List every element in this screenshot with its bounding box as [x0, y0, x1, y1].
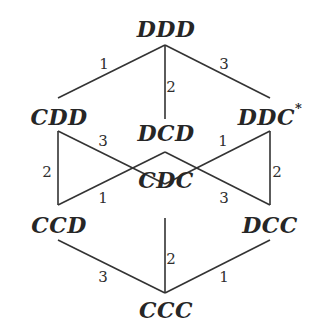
node-label: CCD	[31, 212, 87, 238]
node-dcd: DCD	[137, 122, 194, 144]
edge-dcc-ccc	[165, 240, 270, 293]
node-ddc: DDC*	[238, 106, 302, 128]
edge-label: 3	[219, 57, 229, 72]
asterisk-marker: *	[295, 101, 302, 116]
node-dcc: DCC	[242, 214, 298, 236]
node-ccc: CCC	[139, 299, 193, 321]
edge-ddd-cdd	[58, 45, 165, 98]
lattice-diagram: 123231123321 DDDCDDDCDDDC*CDCCCDDCCCCC	[0, 0, 329, 334]
edge-ccd-ccc	[58, 240, 165, 293]
node-label: DDC	[238, 104, 295, 130]
node-label: CDD	[30, 104, 87, 130]
edge-label: 2	[166, 252, 176, 267]
edge-label: 2	[42, 165, 52, 180]
edge-label: 3	[98, 270, 108, 285]
edge-ddd-ddc	[165, 45, 270, 98]
edge-label: 2	[272, 165, 282, 180]
edge-label: 1	[218, 134, 228, 149]
node-label: DCD	[137, 120, 194, 146]
edge-label: 1	[219, 270, 229, 285]
node-label: DCC	[242, 212, 298, 238]
node-cdc: CDC	[138, 169, 194, 191]
edge-label: 1	[98, 191, 108, 206]
edge-label: 3	[98, 134, 108, 149]
node-ccd: CCD	[31, 214, 87, 236]
edge-label: 1	[99, 57, 109, 72]
node-label: CDC	[138, 167, 194, 193]
node-cdd: CDD	[30, 106, 87, 128]
node-ddd: DDD	[137, 18, 196, 40]
node-label: CCC	[139, 297, 193, 323]
node-label: DDD	[137, 16, 196, 42]
edge-label: 2	[166, 80, 176, 95]
edge-label: 3	[219, 191, 229, 206]
